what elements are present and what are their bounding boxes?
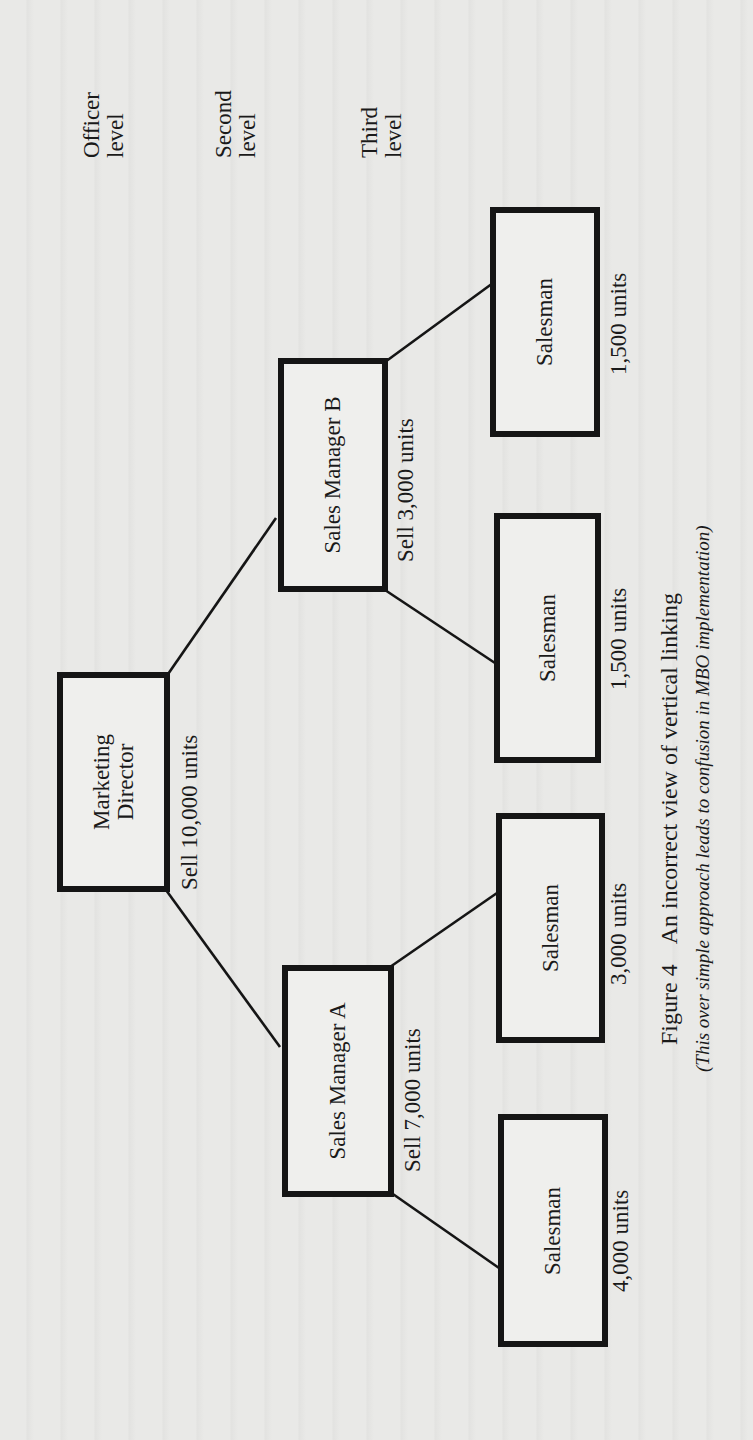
node-sales-manager-b: Sales Manager B xyxy=(278,358,388,592)
target-salesman-b2: 1,500 units xyxy=(607,273,631,375)
target-salesman-a1: 4,000 units xyxy=(609,1190,633,1292)
target-salesman-b1: 1,500 units xyxy=(607,588,631,690)
level-label-third-line2: level xyxy=(382,107,406,158)
connector-manager-b-to-salesman-b1 xyxy=(385,590,495,663)
level-label-officer: Officer level xyxy=(80,92,128,158)
figure-caption: Figure 4An incorrect view of vertical li… xyxy=(657,593,682,1045)
connector-director-to-manager-a xyxy=(166,890,280,1047)
node-label-line1: Marketing xyxy=(89,734,113,830)
level-label-third: Third level xyxy=(358,107,406,158)
node-salesman-b1-label: Salesman xyxy=(535,594,559,682)
target-marketing-director: Sell 10,000 units xyxy=(178,735,202,890)
node-sales-manager-b-label: Sales Manager B xyxy=(321,396,345,553)
node-sales-manager-a-label: Sales Manager A xyxy=(326,1002,350,1159)
node-label-line2: Director xyxy=(114,734,138,830)
node-salesman-b2: Salesman xyxy=(490,207,600,437)
node-salesman-a2-label: Salesman xyxy=(538,884,562,972)
figure-title: An incorrect view of vertical linking xyxy=(656,593,682,944)
level-label-second-line2: level xyxy=(236,90,260,158)
node-salesman-a2: Salesman xyxy=(496,813,605,1043)
level-label-third-line1: Third xyxy=(358,107,382,158)
target-sales-manager-b: Sell 3,000 units xyxy=(394,418,418,562)
connector-manager-a-to-salesman-a2 xyxy=(390,893,497,967)
level-label-officer-line2: level xyxy=(104,92,128,158)
node-salesman-b2-label: Salesman xyxy=(533,278,557,366)
figure-note: (This over simple approach leads to conf… xyxy=(693,525,713,1072)
figure-number: Figure 4 xyxy=(656,964,682,1045)
target-salesman-a2: 3,000 units xyxy=(607,883,631,985)
level-label-second-line1: Second xyxy=(212,90,236,158)
connector-manager-a-to-salesman-a1 xyxy=(390,1192,499,1268)
node-sales-manager-a: Sales Manager A xyxy=(282,965,394,1197)
connector-manager-b-to-salesman-b2 xyxy=(385,283,493,362)
connector-director-to-manager-b xyxy=(166,518,276,677)
node-marketing-director-label: Marketing Director xyxy=(89,734,137,830)
target-sales-manager-a: Sell 7,000 units xyxy=(401,1028,425,1172)
node-salesman-a1: Salesman xyxy=(498,1114,608,1347)
level-label-officer-line1: Officer xyxy=(80,92,104,158)
node-salesman-a1-label: Salesman xyxy=(541,1186,565,1274)
node-marketing-director: Marketing Director xyxy=(57,672,170,892)
level-label-second: Second level xyxy=(212,90,260,158)
node-salesman-b1: Salesman xyxy=(494,513,601,763)
